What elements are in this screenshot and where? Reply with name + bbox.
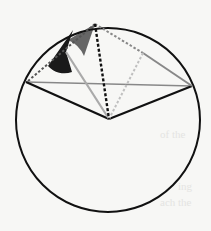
- dotted-mid-center: [109, 53, 143, 119]
- chord-left-right: [26, 82, 192, 86]
- geometry-diagram: [0, 0, 211, 231]
- dotted-radius-top: [95, 24, 109, 119]
- radius-right: [109, 86, 192, 119]
- circle: [16, 28, 200, 212]
